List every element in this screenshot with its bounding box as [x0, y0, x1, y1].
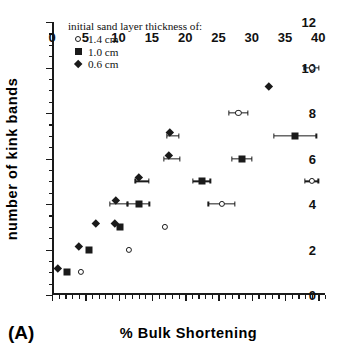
filled-square-marker [198, 178, 205, 185]
x-tick-minor [258, 295, 259, 299]
y-tick-label: 4 [309, 197, 316, 212]
y-axis-title-wrap: number of kink bands [14, 22, 15, 295]
filled-square-marker [135, 201, 142, 208]
error-bar-cap [179, 133, 180, 138]
y-tick-minor [49, 261, 53, 262]
open-circle-marker [219, 201, 225, 207]
x-tick-minor [165, 295, 166, 299]
legend: initial sand layer thickness of: 1.4 cm1… [68, 20, 202, 71]
data-point [139, 178, 145, 184]
x-tick-label: 0 [48, 30, 55, 45]
x-tick-minor [105, 295, 106, 299]
filled-square-marker [292, 132, 299, 139]
x-tick-minor [92, 295, 93, 299]
y-tick-label: 12 [302, 15, 316, 30]
x-tick-minor [172, 295, 173, 299]
y-tick-minor [49, 56, 53, 57]
error-bar-cap [210, 179, 211, 184]
x-tick-minor [205, 295, 206, 299]
y-tick-minor [49, 79, 53, 80]
filled-square-marker [75, 48, 82, 55]
y-tick-major [46, 250, 52, 251]
x-tick-minor [292, 295, 293, 299]
filled-square-marker [85, 246, 92, 253]
filled-diamond-marker [264, 83, 273, 92]
data-point [78, 269, 84, 275]
data-point [125, 246, 131, 252]
x-tick-minor [132, 295, 133, 299]
x-tick-minor [212, 295, 213, 299]
x-tick-minor [265, 295, 266, 299]
x-tick-major [252, 295, 253, 301]
error-bar-cap [179, 156, 180, 161]
x-tick-minor [99, 295, 100, 299]
data-point [85, 246, 92, 253]
y-tick-minor [49, 170, 53, 171]
x-axis-title: % Bulk Shortening [52, 325, 325, 341]
x-tick-major [185, 295, 186, 301]
x-tick-label: 30 [245, 30, 259, 45]
y-tick-minor [49, 136, 53, 137]
filled-diamond-marker [73, 60, 82, 69]
x-tick-minor [278, 295, 279, 299]
open-circle-marker [125, 246, 131, 252]
x-tick-minor [272, 295, 273, 299]
x-tick-minor [245, 295, 246, 299]
x-tick-minor [238, 295, 239, 299]
panel-label: (A) [8, 322, 34, 344]
error-bar-cap [149, 202, 150, 207]
x-tick-minor [72, 295, 73, 299]
x-tick-major [85, 295, 86, 301]
error-bar-cap [316, 133, 317, 138]
legend-entry-label: 1.0 cm [88, 46, 118, 58]
legend-symbol [68, 36, 88, 42]
y-tick-label: 8 [309, 106, 316, 121]
data-point [309, 64, 315, 70]
error-bar-cap [193, 179, 194, 184]
error-bar-cap [247, 111, 248, 116]
data-point [79, 246, 85, 252]
legend-symbol [68, 61, 88, 67]
error-bar-cap [228, 111, 229, 116]
legend-title: initial sand layer thickness of: [68, 20, 202, 32]
y-tick-minor [49, 284, 53, 285]
y-tick-major [46, 204, 52, 205]
x-tick-major [152, 295, 153, 301]
legend-entry: 1.0 cm [68, 46, 202, 59]
error-bar-cap [234, 202, 235, 207]
open-circle-marker [78, 269, 84, 275]
x-tick-minor [198, 295, 199, 299]
y-tick-minor [49, 124, 53, 125]
y-tick-minor [49, 102, 53, 103]
open-circle-marker [309, 178, 315, 184]
error-bar-cap [318, 179, 319, 184]
filled-diamond-marker [91, 219, 100, 228]
x-tick-minor [192, 295, 193, 299]
data-point [170, 133, 176, 139]
legend-entries: 1.4 cm1.0 cm0.6 cm [68, 33, 202, 71]
error-bar-cap [318, 65, 319, 70]
x-tick-minor [125, 295, 126, 299]
x-tick-minor [232, 295, 233, 299]
error-bar-cap [273, 133, 274, 138]
error-bar-cap [208, 202, 209, 207]
filled-square-marker [64, 269, 71, 276]
open-circle-marker [309, 64, 315, 70]
y-tick-major [46, 22, 52, 23]
x-tick-major [52, 295, 53, 301]
data-point [292, 132, 299, 139]
data-point [57, 269, 63, 275]
x-tick-major [218, 295, 219, 301]
y-tick-minor [49, 90, 53, 91]
x-tick-minor [112, 295, 113, 299]
filled-square-marker [238, 155, 245, 162]
y-tick-minor [49, 238, 53, 239]
x-tick-minor [159, 295, 160, 299]
y-tick-minor [49, 147, 53, 148]
x-tick-minor [145, 295, 146, 299]
open-circle-marker [162, 224, 168, 230]
open-circle-marker [235, 110, 241, 116]
x-tick-minor [312, 295, 313, 299]
x-tick-minor [225, 295, 226, 299]
error-bar-cap [127, 202, 128, 207]
